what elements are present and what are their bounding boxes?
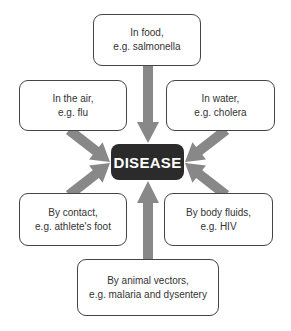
node-food-line1: In food, [130,26,163,40]
node-vectors-line1: By animal vectors, [107,274,189,288]
node-contact-line2: e.g. athlete's foot [35,220,111,234]
center-node-disease: DISEASE [111,144,184,180]
node-vectors-line2: e.g. malaria and dysentery [89,288,207,302]
node-contact: By contact, e.g. athlete's foot [19,193,127,246]
node-contact-line1: By contact, [48,206,97,220]
node-fluids: By body fluids, e.g. HIV [164,193,273,246]
node-food: In food, e.g. salmonella [93,14,201,66]
arrow-food [137,66,159,143]
arrow-vectors [137,181,159,259]
node-air-line1: In the air, [52,92,93,106]
node-water: In water, e.g. cholera [166,80,275,131]
node-air: In the air, e.g. flu [19,80,127,131]
node-air-line2: e.g. flu [58,106,88,120]
node-vectors: By animal vectors, e.g. malaria and dyse… [77,259,219,316]
node-fluids-line2: e.g. HIV [200,220,236,234]
node-food-line2: e.g. salmonella [113,40,180,54]
node-water-line1: In water, [202,92,240,106]
node-water-line2: e.g. cholera [194,106,246,120]
node-fluids-line1: By body fluids, [186,206,251,220]
